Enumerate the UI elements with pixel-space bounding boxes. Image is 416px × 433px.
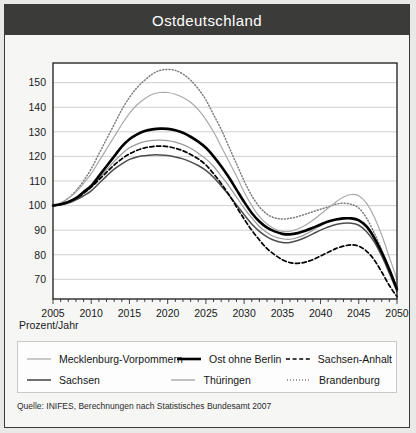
y-axis-tick-label: 80 <box>34 249 46 261</box>
x-axis-tick-label: 2050 <box>385 307 409 319</box>
legend-item-mecklenburg-vorpommern: Mecklenburg-Vorpommern <box>26 353 176 365</box>
x-axis-tick-label: 2045 <box>347 307 371 319</box>
legend-row: Sachsen Thüringen Brandenburg <box>26 369 392 390</box>
x-axis-tick-label: 2015 <box>118 307 142 319</box>
chart-frame: Ostdeutschland 7080901001101201301401502… <box>4 4 410 428</box>
legend-item-sachsen-anhalt: Sachsen-Anhalt <box>285 353 392 365</box>
y-axis-tick-label: 120 <box>28 150 46 162</box>
chart-legend: Mecklenburg-Vorpommern Ost ohne Berlin S… <box>17 341 397 393</box>
page-title: Ostdeutschland <box>152 12 262 29</box>
legend-item-sachsen: Sachsen <box>26 374 170 386</box>
legend-swatch-line-icon <box>285 354 311 364</box>
legend-swatch-line-icon <box>26 354 52 364</box>
y-axis-label: Prozent/Jahr <box>19 319 79 331</box>
legend-item-brandenburg: Brandenburg <box>286 374 392 386</box>
legend-label: Thüringen <box>203 374 250 386</box>
y-axis-tick-label: 140 <box>28 101 46 113</box>
x-axis-tick-label: 2030 <box>232 307 256 319</box>
legend-label: Mecklenburg-Vorpommern <box>59 353 183 365</box>
source-note: Quelle: INIFES, Berechnungen nach Statis… <box>17 401 271 411</box>
y-axis-tick-label: 100 <box>28 199 46 211</box>
legend-row: Mecklenburg-Vorpommern Ost ohne Berlin S… <box>26 348 392 369</box>
legend-item-ost-ohne-berlin: Ost ohne Berlin <box>176 353 285 365</box>
y-axis-tick-label: 110 <box>29 175 46 187</box>
legend-label: Ost ohne Berlin <box>209 353 281 365</box>
x-axis-tick-label: 2005 <box>41 307 65 319</box>
x-axis-tick-label: 2020 <box>156 307 180 319</box>
x-axis-tick-label: 2010 <box>80 307 104 319</box>
x-axis-tick-label: 2040 <box>309 307 333 319</box>
legend-swatch-line-icon <box>170 375 196 385</box>
y-axis-tick-label: 70 <box>34 273 46 285</box>
legend-label: Sachsen-Anhalt <box>318 353 392 365</box>
y-axis-tick-label: 150 <box>28 76 46 88</box>
legend-swatch-line-icon <box>26 375 52 385</box>
legend-item-thueringen: Thüringen <box>170 374 286 386</box>
legend-label: Brandenburg <box>319 374 380 386</box>
x-axis-tick-label: 2035 <box>271 307 295 319</box>
y-axis-tick-label: 130 <box>28 126 46 138</box>
legend-label: Sachsen <box>59 374 100 386</box>
chart-title-bar: Ostdeutschland <box>5 5 409 35</box>
y-axis-tick-label: 90 <box>34 224 46 236</box>
legend-swatch-line-icon <box>286 375 312 385</box>
legend-swatch-line-icon <box>176 354 202 364</box>
line-chart: 7080901001101201301401502005201020152020… <box>5 35 409 335</box>
x-axis-tick-label: 2025 <box>194 307 218 319</box>
